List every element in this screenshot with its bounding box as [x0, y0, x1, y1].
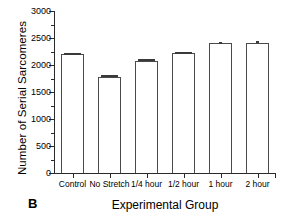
- y-tick-minor: [51, 25, 54, 26]
- bar: [172, 53, 195, 173]
- error-bar-cap: [64, 53, 81, 55]
- bar: [135, 61, 158, 173]
- y-tick-label: 1500: [31, 88, 51, 97]
- x-tick: [110, 174, 111, 178]
- error-bar-stem: [220, 42, 221, 44]
- x-axis-title: Experimental Group: [54, 198, 276, 212]
- error-bar-stem: [257, 41, 258, 43]
- y-tick-label: 500: [36, 142, 51, 151]
- plot-area: 050010001500200025003000 ControlNo Stret…: [54, 11, 276, 173]
- y-axis-title: Number of Serial Sarcomeres: [16, 8, 28, 188]
- y-tick-minor: [51, 52, 54, 53]
- y-tick-minor: [51, 79, 54, 80]
- bar: [61, 54, 84, 173]
- x-tick-end: [275, 174, 276, 178]
- y-tick-minor: [51, 160, 54, 161]
- x-tick: [73, 174, 74, 178]
- x-axis-line: [54, 173, 276, 174]
- y-axis-line: [54, 11, 55, 174]
- x-tick: [258, 174, 259, 178]
- error-bar-cap: [101, 75, 118, 77]
- y-tick-label: 2000: [31, 61, 51, 70]
- bar: [209, 43, 232, 173]
- y-tick-label: 2500: [31, 34, 51, 43]
- x-tick: [221, 174, 222, 178]
- figure-panel-b: Number of Serial Sarcomeres 050010001500…: [0, 0, 284, 223]
- y-tick-label: 1000: [31, 115, 51, 124]
- x-tick: [184, 174, 185, 178]
- error-bar-cap: [175, 52, 192, 54]
- y-tick-minor: [51, 133, 54, 134]
- y-tick-minor: [51, 106, 54, 107]
- x-tick-label: 1/4 hour: [131, 180, 162, 189]
- y-tick-label: 0: [46, 169, 51, 178]
- panel-letter: B: [28, 197, 37, 210]
- x-tick-label: 1/2 hour: [168, 180, 199, 189]
- x-tick-label: No Stretch: [89, 180, 129, 189]
- x-tick: [147, 174, 148, 178]
- y-tick-label: 3000: [31, 7, 51, 16]
- x-tick-label: 2 hour: [245, 180, 269, 189]
- x-tick-label: 1 hour: [208, 180, 232, 189]
- x-tick-label: Control: [59, 180, 86, 189]
- error-bar-cap: [138, 59, 155, 61]
- bar: [246, 43, 269, 173]
- bar: [98, 77, 121, 173]
